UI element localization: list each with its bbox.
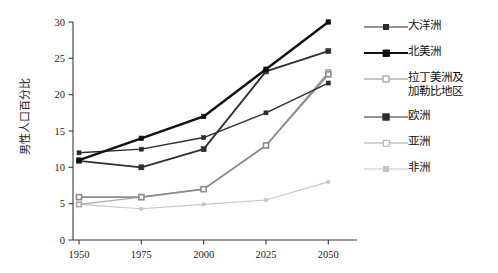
legend-marker-icon: [383, 50, 390, 57]
legend-item-3[interactable]: 拉丁美洲及 加勒比地区: [364, 70, 498, 98]
data-point: [327, 180, 330, 183]
legend-item-6[interactable]: 非洲: [364, 160, 498, 176]
x-tick-label: 1975: [131, 249, 152, 260]
data-point: [77, 202, 82, 207]
data-point: [139, 147, 143, 151]
y-tick-label: 25: [55, 53, 66, 64]
data-point: [201, 114, 206, 119]
y-tick-label: 10: [55, 162, 66, 173]
x-tick-label: 1950: [69, 249, 90, 260]
legend-label: 非洲: [408, 160, 430, 174]
y-tick-label: 5: [60, 198, 65, 209]
x-tick-label: 2025: [255, 249, 276, 260]
data-point: [140, 207, 143, 210]
data-point: [264, 111, 268, 115]
series-3: [77, 49, 331, 170]
data-point: [326, 81, 330, 85]
legend-swatch-icon: [364, 20, 408, 34]
y-axis-title: 男性人口百分比: [16, 46, 32, 186]
legend-label: 大洋洲: [408, 18, 441, 32]
x-tick-label: 2000: [193, 249, 214, 260]
y-tick-label: 30: [55, 17, 66, 28]
data-point: [139, 195, 144, 200]
x-tick-label: 2050: [318, 249, 339, 260]
plot-area: 05101520253019501975200020252050 男性人口百分比: [0, 0, 360, 273]
legend-item-1[interactable]: 大洋洲: [364, 18, 498, 34]
legend-item-2[interactable]: 北美洲: [364, 44, 498, 60]
legend-item-5[interactable]: 亚洲: [364, 134, 498, 150]
data-point: [77, 195, 82, 200]
data-point: [139, 165, 144, 170]
legend-label: 欧洲: [408, 108, 430, 122]
data-point: [264, 67, 269, 72]
y-tick-label: 15: [55, 126, 66, 137]
legend-swatch-icon: [364, 136, 408, 150]
data-point: [201, 187, 206, 192]
legend-item-4[interactable]: 欧洲: [364, 108, 498, 124]
legend-swatch-icon: [364, 72, 408, 86]
chart-legend: 大洋洲北美洲拉丁美洲及 加勒比地区欧洲亚洲非洲: [364, 18, 498, 186]
chart-figure: 05101520253019501975200020252050 男性人口百分比…: [0, 0, 498, 273]
legend-label: 拉丁美洲及 加勒比地区: [408, 70, 463, 98]
legend-label: 亚洲: [408, 134, 430, 148]
chart-svg: 05101520253019501975200020252050: [0, 0, 360, 273]
data-point: [77, 158, 82, 163]
data-point: [202, 136, 206, 140]
data-point: [326, 72, 331, 77]
y-tick-label: 20: [55, 89, 66, 100]
series-1: [77, 20, 331, 163]
data-point: [202, 203, 205, 206]
data-point: [201, 147, 206, 152]
data-point: [139, 136, 144, 141]
data-point: [326, 49, 331, 54]
legend-marker-icon: [383, 76, 390, 83]
legend-swatch-icon: [364, 162, 408, 176]
data-point: [264, 199, 267, 202]
data-point: [326, 20, 331, 25]
legend-marker-icon: [383, 114, 390, 121]
data-point: [77, 151, 81, 155]
legend-swatch-icon: [364, 110, 408, 124]
legend-marker-icon: [383, 140, 390, 147]
data-point: [263, 143, 268, 148]
legend-marker-icon: [383, 24, 389, 30]
series-5: [78, 180, 330, 210]
legend-label: 北美洲: [408, 44, 441, 58]
legend-swatch-icon: [364, 46, 408, 60]
y-tick-label: 0: [60, 235, 65, 246]
legend-marker-icon: [383, 166, 389, 172]
